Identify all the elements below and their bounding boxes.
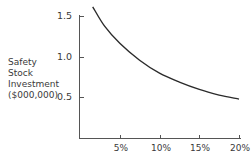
data-curve: [93, 7, 239, 99]
chart-plot: [0, 0, 252, 160]
axes: [79, 15, 241, 139]
